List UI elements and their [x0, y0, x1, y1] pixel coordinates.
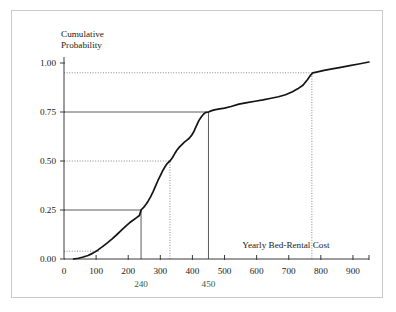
x-tick-label: 300	[153, 266, 167, 276]
x-tick-label: 900	[346, 266, 360, 276]
x-tick-label: 600	[250, 266, 264, 276]
x-tick-label: 200	[121, 266, 135, 276]
figure-root: 0.000.250.500.751.0001002003004005006007…	[0, 0, 396, 312]
x-tick-label: 800	[314, 266, 328, 276]
x-tick-label: 500	[218, 266, 232, 276]
x-tick-label: 400	[186, 266, 200, 276]
x-tick-label: 0	[62, 266, 67, 276]
y-tick-label: 1.00	[40, 58, 56, 68]
y-tick-label: 0.50	[40, 156, 56, 166]
y-tick-label: 0.75	[40, 107, 56, 117]
ecdf-chart: 0.000.250.500.751.0001002003004005006007…	[12, 11, 382, 297]
y-tick-label: 0.00	[40, 254, 56, 264]
x-tick-label: 100	[89, 266, 103, 276]
ecdf-curve-path	[74, 62, 369, 259]
y-axis-title-line2: Probability	[61, 40, 102, 50]
annotation-label-240: 240	[134, 279, 148, 289]
y-tick-label: 0.25	[40, 205, 56, 215]
plot-frame: 0.000.250.500.751.0001002003004005006007…	[11, 10, 383, 298]
annotation-label-450: 450	[202, 279, 216, 289]
y-axis-title-line1: Cumulative	[61, 29, 104, 39]
x-tick-label: 700	[282, 266, 296, 276]
x-axis-title: Yearly Bed-Rental Cost	[242, 240, 330, 250]
